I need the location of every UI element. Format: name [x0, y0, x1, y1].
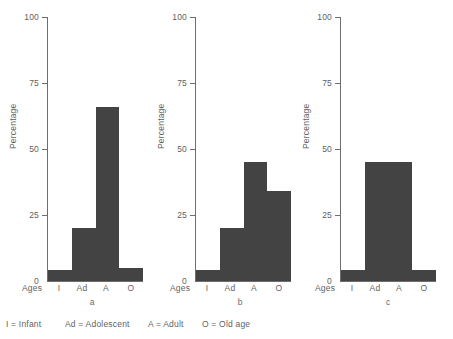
y-tick-label: 25	[322, 210, 332, 220]
y-tick-label: 50	[29, 144, 39, 154]
bar-a	[389, 162, 413, 281]
x-axis-line-a	[47, 281, 143, 282]
x-tick-label-o: O	[276, 283, 283, 293]
bar-a	[244, 162, 268, 281]
y-tick-label: 25	[29, 210, 39, 220]
y-tick-label: 75	[177, 78, 187, 88]
y-tick-label: 75	[322, 78, 332, 88]
bar-ad	[365, 162, 389, 281]
x-tick-labels-b: I Ad A O	[148, 283, 298, 295]
legend: I = Infant Ad = Adolescent A = Adult O =…	[6, 319, 446, 333]
bar-a	[96, 107, 120, 281]
y-tick-label: 75	[29, 78, 39, 88]
tick-mark	[190, 83, 195, 84]
y-tick-label: 100	[24, 12, 39, 22]
tick-mark	[335, 215, 340, 216]
y-axis-title-a: Percentage	[8, 104, 18, 149]
figure-container: Percentage 100 75 50 25 0	[0, 0, 453, 339]
x-axis-line-b	[195, 281, 291, 282]
chart-panel-a: Percentage 100 75 50 25 0	[0, 0, 150, 310]
x-tick-labels-c: I Ad A O	[293, 283, 443, 295]
x-tick-label-ad: Ad	[370, 283, 381, 293]
bar-group-b	[196, 17, 291, 281]
bar-i	[48, 270, 72, 281]
x-tick-label-i: I	[206, 283, 209, 293]
plot-area-a: 100 75 50 25 0	[47, 17, 143, 281]
tick-mark	[42, 215, 47, 216]
x-tick-labels-a: I Ad A O	[0, 283, 150, 295]
bar-ad	[220, 228, 244, 281]
y-tick-label: 25	[177, 210, 187, 220]
bar-group-a	[48, 17, 143, 281]
bar-group-c	[341, 17, 436, 281]
tick-mark	[42, 149, 47, 150]
tick-mark	[42, 83, 47, 84]
tick-mark	[190, 215, 195, 216]
y-axis-title-b: Percentage	[156, 104, 166, 149]
tick-mark	[42, 17, 47, 18]
bar-ad	[72, 228, 96, 281]
tick-mark	[190, 149, 195, 150]
y-tick-label: 50	[177, 144, 187, 154]
tick-mark	[335, 17, 340, 18]
bar-o	[267, 191, 291, 281]
y-tick-label: 100	[172, 12, 187, 22]
x-tick-label-o: O	[128, 283, 135, 293]
y-tick-label: 100	[317, 12, 332, 22]
x-tick-label-i: I	[351, 283, 354, 293]
tick-mark	[190, 17, 195, 18]
bar-o	[412, 270, 436, 281]
panel-caption-c: c	[386, 297, 390, 307]
panel-caption-b: b	[238, 297, 243, 307]
panel-caption-a: a	[90, 297, 95, 307]
y-axis-title-c: Percentage	[301, 104, 311, 149]
x-tick-label-ad: Ad	[225, 283, 236, 293]
bar-o	[119, 268, 143, 281]
bar-i	[341, 270, 365, 281]
x-tick-label-a: A	[396, 283, 402, 293]
legend-entry-adolescent: Ad = Adolescent	[65, 319, 130, 329]
x-tick-label-a: A	[103, 283, 109, 293]
bar-i	[196, 270, 220, 281]
x-tick-label-ad: Ad	[77, 283, 88, 293]
x-tick-label-o: O	[421, 283, 428, 293]
chart-panel-c: Percentage 100 75 50 25 0	[293, 0, 443, 310]
x-tick-label-i: I	[58, 283, 61, 293]
x-axis-line-c	[340, 281, 436, 282]
legend-entry-infant: I = Infant	[6, 319, 41, 329]
legend-entry-old-age: O = Old age	[202, 319, 250, 329]
tick-mark	[335, 83, 340, 84]
tick-mark	[335, 149, 340, 150]
y-tick-label: 50	[322, 144, 332, 154]
legend-entry-adult: A = Adult	[148, 319, 184, 329]
chart-panel-b: Percentage 100 75 50 25 0	[148, 0, 298, 310]
plot-area-b: 100 75 50 25 0	[195, 17, 291, 281]
plot-area-c: 100 75 50 25 0	[340, 17, 436, 281]
x-tick-label-a: A	[251, 283, 257, 293]
